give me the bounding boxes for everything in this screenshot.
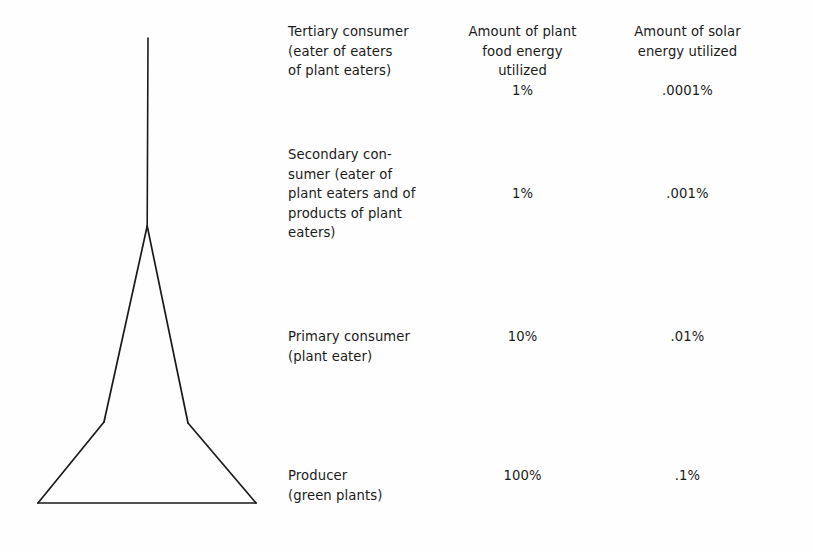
pyramid-graphic: [0, 0, 280, 552]
value-plant-energy-tertiary: 1%: [460, 81, 585, 101]
value-solar-energy-tertiary: .0001%: [620, 81, 755, 101]
row-label-tertiary: Tertiary consumer (eater of eaters of pl…: [288, 22, 460, 81]
pyramid-panel: [0, 0, 280, 552]
header-solar-energy: Amount of solar energy utilized: [620, 22, 755, 61]
value-solar-energy-producer: .1%: [620, 466, 755, 486]
energy-pyramid-figure: Amount of plant food energy utilized Amo…: [0, 0, 813, 552]
value-solar-energy-primary: .01%: [620, 327, 755, 347]
header-plant-food-energy: Amount of plant food energy utilized: [460, 22, 585, 81]
secondary-level-left-edge: [104, 226, 147, 422]
tertiary-level-spike: [147, 38, 148, 226]
producer-level-right-edge: [188, 423, 256, 503]
value-solar-energy-secondary: .001%: [620, 184, 755, 204]
row-label-secondary: Secondary con- sumer (eater of plant eat…: [288, 145, 460, 243]
value-plant-energy-secondary: 1%: [460, 184, 585, 204]
row-label-producer: Producer (green plants): [288, 466, 460, 505]
trophic-table: Amount of plant food energy utilized Amo…: [280, 0, 813, 552]
value-plant-energy-primary: 10%: [460, 327, 585, 347]
secondary-level-right-edge: [147, 226, 188, 423]
row-label-primary: Primary consumer (plant eater): [288, 327, 460, 366]
value-plant-energy-producer: 100%: [460, 466, 585, 486]
producer-level-left-edge: [38, 422, 104, 503]
